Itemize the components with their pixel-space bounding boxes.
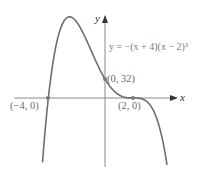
point-2-0-label: (2, 0) [118,101,141,112]
point-neg4-0-label: (−4, 0) [10,101,39,112]
y-axis-arrow-icon [102,15,108,23]
x-axis-arrow-icon [170,95,178,101]
point-neg4-0 [46,96,50,100]
x-axis-label: x [180,92,185,103]
function-graph [0,0,205,174]
point-0-32-label: (0, 32) [107,74,135,85]
equation-label: y = −(x + 4)(x − 2)³ [109,42,188,52]
y-axis-label: y [95,13,100,24]
